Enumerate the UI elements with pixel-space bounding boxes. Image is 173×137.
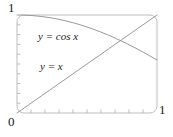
- y-axis-max-label: 1: [8, 1, 15, 14]
- x-axis-max-label: 1: [159, 103, 166, 116]
- cos-curve-label: y = cos x: [38, 31, 78, 42]
- plot-canvas: [0, 0, 173, 137]
- identity-curve-label: y = x: [40, 61, 63, 72]
- x-axis-ticks: [31, 110, 143, 114]
- cosine-fixed-point-figure: 1 0 1 y = cos x y = x: [0, 0, 173, 137]
- origin-label: 0: [8, 115, 15, 128]
- y-axis-ticks: [17, 25, 21, 103]
